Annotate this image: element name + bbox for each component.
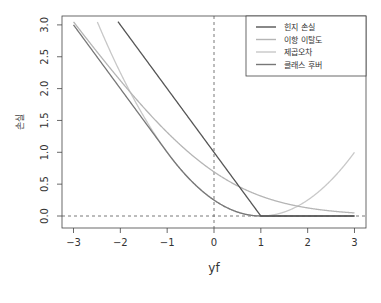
x-tick-label: 0 <box>211 237 217 248</box>
x-tick-label: 1 <box>258 237 264 248</box>
legend-label: 제곱오차 <box>284 48 313 57</box>
legend: 힌지 손실이항 이탈도제곱오차클래스 후버 <box>246 16 366 76</box>
legend-label: 클래스 후버 <box>284 60 322 70</box>
y-tick-label: 0.0 <box>39 208 50 224</box>
y-axis-label: 손실 <box>15 114 25 130</box>
legend-label: 이항 이탈도 <box>284 35 322 45</box>
y-tick-label: 1.5 <box>39 112 50 128</box>
y-tick-label: 3.0 <box>39 17 50 33</box>
legend-label: 힌지 손실 <box>284 22 315 32</box>
x-tick-label: −3 <box>66 237 81 248</box>
x-tick-label: 2 <box>304 237 310 248</box>
x-tick-label: −2 <box>113 237 128 248</box>
x-axis-label: yf <box>208 261 220 275</box>
y-tick-label: 2.0 <box>39 81 50 97</box>
loss-chart: −3−2−101230.00.51.01.52.02.53.0yf손실 힌지 손… <box>0 0 381 303</box>
y-tick-label: 2.5 <box>39 49 50 65</box>
x-tick-label: 3 <box>351 237 357 248</box>
x-tick-label: −1 <box>160 237 175 248</box>
y-tick-label: 1.0 <box>39 144 50 160</box>
y-tick-label: 0.5 <box>39 176 50 192</box>
